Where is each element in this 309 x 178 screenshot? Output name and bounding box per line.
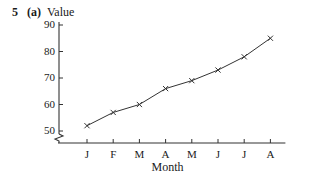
x-marker-icon <box>268 36 273 41</box>
x-marker-icon <box>84 123 89 128</box>
x-marker-icon <box>137 102 142 107</box>
axis-break-icon <box>55 134 63 143</box>
chart-series <box>84 36 273 129</box>
data-line <box>87 38 270 125</box>
x-marker-icon <box>242 54 247 59</box>
x-marker-icon <box>163 86 168 91</box>
x-marker-icon <box>111 110 116 115</box>
x-marker-icon <box>215 67 220 72</box>
line-chart <box>0 0 309 178</box>
x-marker-icon <box>189 78 194 83</box>
